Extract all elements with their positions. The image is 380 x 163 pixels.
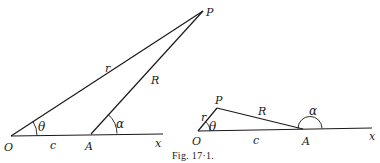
left-label-theta: θ xyxy=(38,120,46,134)
left-label-a: A xyxy=(84,140,93,153)
left-label-x: x xyxy=(155,137,162,150)
right-label-x: x xyxy=(369,130,376,143)
left-label-alpha: α xyxy=(116,117,124,131)
right-diagram: O c A x P r R θ α xyxy=(192,94,376,148)
right-axis-ox xyxy=(198,128,372,131)
left-label-o: O xyxy=(4,141,13,154)
figure-caption: Fig. 17·1. xyxy=(172,150,214,161)
right-label-c: c xyxy=(253,134,259,147)
left-label-c: c xyxy=(50,139,56,152)
left-label-r: r xyxy=(105,62,111,75)
right-label-p: P xyxy=(214,94,223,107)
right-alpha-arc xyxy=(298,116,322,128)
right-label-a: A xyxy=(301,135,310,148)
right-label-r: r xyxy=(201,111,207,124)
right-label-capital-r: R xyxy=(257,105,266,118)
right-label-o: O xyxy=(192,135,201,148)
left-theta-arc xyxy=(33,122,37,136)
left-diagram: O c A x P r R θ α xyxy=(4,6,214,154)
left-label-capital-r: R xyxy=(150,74,159,87)
left-axis-ox xyxy=(11,134,163,136)
figure-17-1: O c A x P r R θ α O c A x P r R θ α Fig.… xyxy=(0,0,380,163)
right-label-theta: θ xyxy=(209,120,217,134)
left-label-p: P xyxy=(205,6,214,19)
right-label-alpha: α xyxy=(309,104,317,118)
